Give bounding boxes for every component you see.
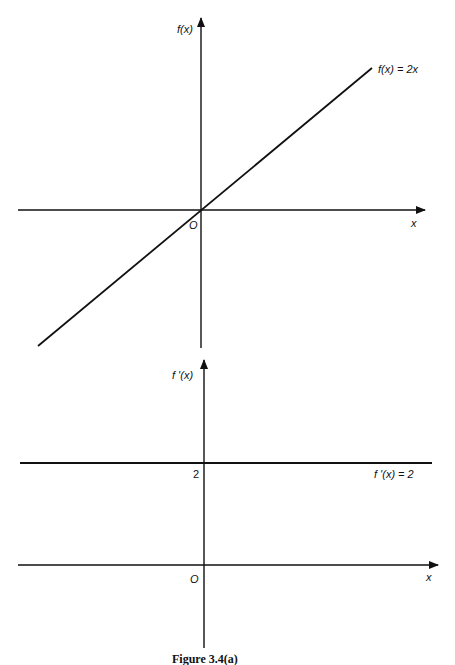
figure-caption: Figure 3.4(a): [172, 652, 238, 665]
origin-label: O: [190, 573, 199, 585]
curve-label: f(x) = 2x: [378, 63, 419, 75]
plot-fprime: f '(x) x O 2 f '(x) = 2: [18, 360, 438, 648]
y-axis-label: f(x): [177, 23, 193, 35]
plot-fx: f(x) x O f(x) = 2x: [18, 18, 425, 348]
line-fx-2x: [38, 68, 372, 346]
origin-label: O: [189, 219, 198, 231]
x-axis-label: x: [425, 571, 432, 583]
y-axis-label: f '(x): [172, 369, 193, 381]
curve-label: f '(x) = 2: [374, 468, 414, 480]
x-axis-label: x: [410, 217, 417, 229]
figure: f(x) x O f(x) = 2x f '(x) x O 2 f '(x) =…: [0, 0, 455, 665]
y-tick-label-2: 2: [193, 468, 199, 480]
